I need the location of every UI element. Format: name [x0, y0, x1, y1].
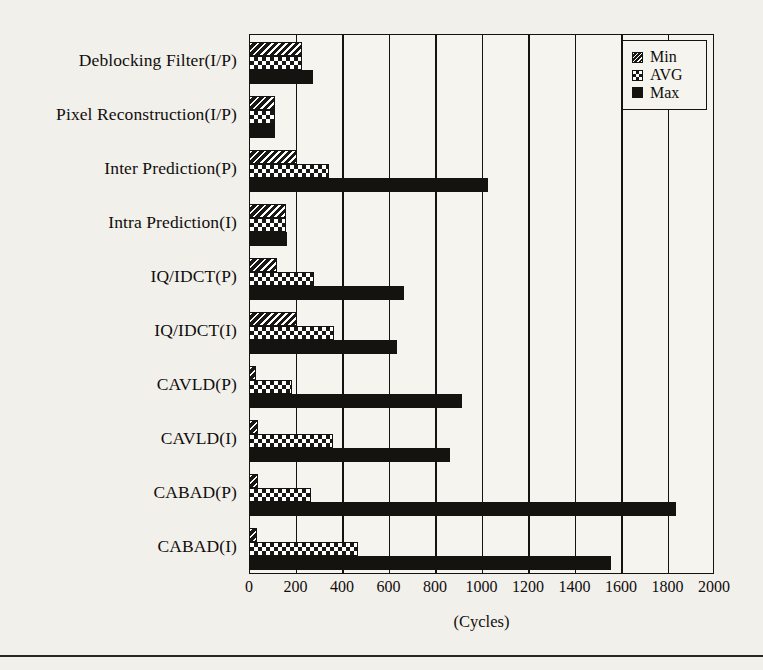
bar-avg — [249, 326, 334, 340]
legend-swatch-avg-icon — [632, 70, 643, 81]
bar-min — [249, 366, 256, 380]
category-label: CAVLD(I) — [161, 428, 237, 449]
legend-label-avg: AVG — [650, 67, 683, 84]
bar-max — [249, 178, 488, 192]
bar-max — [249, 70, 313, 84]
bar-min — [249, 42, 302, 56]
bar-group — [249, 258, 714, 300]
legend-label-min: Min — [650, 49, 677, 66]
legend-swatch-min-icon — [632, 52, 643, 63]
bar-group — [249, 312, 714, 354]
category-label: IQ/IDCT(I) — [154, 320, 237, 341]
bar-group — [249, 150, 714, 192]
category-label: CABAD(I) — [157, 536, 237, 557]
legend-item-avg: AVG — [632, 67, 700, 84]
bar-min — [249, 204, 286, 218]
x-tick-label: 2000 — [684, 578, 744, 596]
bar-max — [249, 556, 611, 570]
bar-avg — [249, 110, 275, 124]
bar-min — [249, 312, 297, 326]
chart-legend: Min AVG Max — [622, 40, 707, 110]
legend-item-max: Max — [632, 85, 700, 102]
bar-avg — [249, 542, 358, 556]
bar-avg — [249, 56, 302, 70]
category-axis-labels: Deblocking Filter(I/P)Pixel Reconstructi… — [0, 34, 243, 574]
legend-item-min: Min — [632, 49, 700, 66]
bar-min — [249, 258, 277, 272]
bar-max — [249, 286, 404, 300]
category-label: Pixel Reconstruction(I/P) — [56, 104, 237, 125]
bar-group — [249, 204, 714, 246]
bar-min — [249, 528, 257, 542]
bar-max — [249, 232, 287, 246]
legend-label-max: Max — [650, 85, 679, 102]
x-axis-title: (Cycles) — [249, 612, 714, 632]
page-divider — [0, 655, 763, 657]
bar-group — [249, 366, 714, 408]
bar-min — [249, 474, 258, 488]
category-label: CAVLD(P) — [157, 374, 237, 395]
category-label: Inter Prediction(P) — [104, 158, 237, 179]
chart-figure: Deblocking Filter(I/P)Pixel Reconstructi… — [0, 0, 763, 670]
bar-avg — [249, 488, 311, 502]
bar-group — [249, 474, 714, 516]
bar-avg — [249, 272, 314, 286]
bar-min — [249, 420, 258, 434]
category-label: Deblocking Filter(I/P) — [79, 50, 237, 71]
bar-group — [249, 420, 714, 462]
bar-max — [249, 340, 397, 354]
category-label: Intra Prediction(I) — [108, 212, 237, 233]
bar-min — [249, 96, 275, 110]
bar-avg — [249, 164, 329, 178]
bar-rows — [249, 34, 714, 574]
bar-max — [249, 448, 450, 462]
bar-max — [249, 502, 676, 516]
bar-max — [249, 124, 275, 138]
bar-group — [249, 528, 714, 570]
legend-swatch-max-icon — [632, 87, 643, 98]
category-label: IQ/IDCT(P) — [150, 266, 237, 287]
category-label: CABAD(P) — [154, 482, 237, 503]
bar-max — [249, 394, 462, 408]
bar-avg — [249, 218, 286, 232]
bar-avg — [249, 434, 333, 448]
bar-avg — [249, 380, 292, 394]
bar-min — [249, 150, 297, 164]
